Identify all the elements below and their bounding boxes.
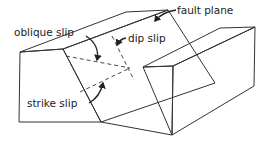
right-block-front-face xyxy=(143,66,173,135)
right-block xyxy=(101,27,255,135)
fault-plane-arrow-icon xyxy=(155,10,176,21)
label-strike-slip: strike slip xyxy=(27,97,78,109)
label-oblique-slip: oblique slip xyxy=(14,26,74,38)
label-dip-slip: dip slip xyxy=(128,32,166,44)
strike-slip-arrow-icon xyxy=(89,83,103,103)
label-fault-plane: fault plane xyxy=(177,4,233,16)
dip-slip-arrow-icon xyxy=(117,38,126,45)
fault-diagram: fault plane oblique slip dip slip strike… xyxy=(0,0,270,141)
strike-slip-dashed-line xyxy=(80,68,130,92)
